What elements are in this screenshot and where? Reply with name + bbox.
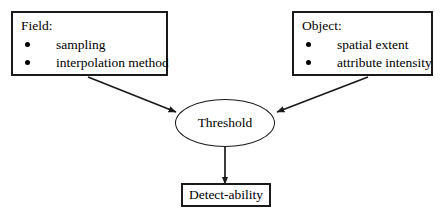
edge-object-to-threshold — [277, 77, 368, 112]
threshold-node-ellipse: Threshold — [175, 99, 275, 147]
field-bullet-item: sampling — [21, 36, 169, 54]
object-heading: Object: — [302, 18, 342, 34]
threshold-label: Threshold — [198, 115, 253, 131]
bullet-dot-icon — [25, 42, 30, 47]
detectability-label: Detect-ability — [189, 187, 263, 203]
field-heading: Field: — [21, 18, 53, 34]
diagram-canvas: Field: sampling interpolation method Obj… — [0, 0, 441, 221]
object-bullet-list: spatial extent attribute intensity — [302, 36, 432, 72]
edge-field-to-threshold — [88, 77, 176, 112]
object-bullet-item: attribute intensity — [302, 54, 432, 72]
field-node-box: Field: sampling interpolation method — [11, 11, 168, 76]
object-bullet-label: attribute intensity — [337, 55, 432, 70]
field-bullet-list: sampling interpolation method — [21, 36, 169, 72]
field-bullet-label: sampling — [56, 37, 106, 52]
object-bullet-label: spatial extent — [337, 37, 409, 52]
detectability-node-box: Detect-ability — [181, 183, 271, 207]
object-node-box: Object: spatial extent attribute intensi… — [292, 11, 433, 76]
bullet-dot-icon — [306, 60, 311, 65]
field-bullet-item: interpolation method — [21, 54, 169, 72]
bullet-dot-icon — [25, 60, 30, 65]
field-bullet-label: interpolation method — [56, 55, 169, 70]
object-bullet-item: spatial extent — [302, 36, 432, 54]
bullet-dot-icon — [306, 42, 311, 47]
